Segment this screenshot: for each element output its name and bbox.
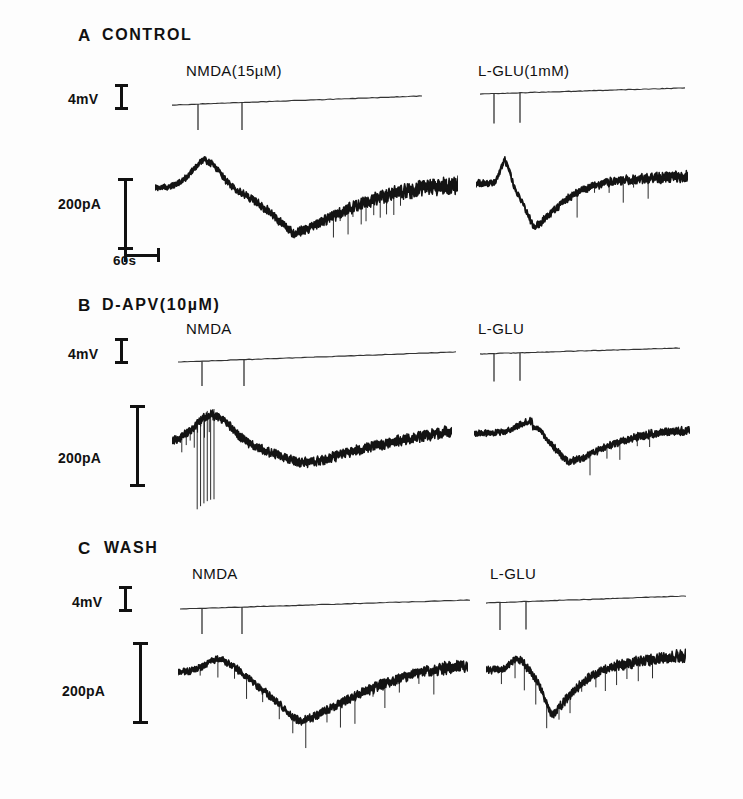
scale-bar-cap-top [130,405,145,408]
panel-title-C: WASH [104,539,158,557]
current-noise-band [178,656,468,725]
drug-label-C-1: L-GLU [490,565,536,582]
scale-bar-cap-bottom [115,107,128,110]
current-noise-band [155,157,458,238]
voltage-scale-bar-C [119,586,132,612]
scale-bar-cap-bottom [115,361,128,364]
figure-canvas: ACONTROL4mV200pA60sNMDA(15µM)L-GLU(1mM)B… [0,0,743,799]
current-scale-bar-C [133,642,148,724]
voltage-trace-C-1 [486,588,686,630]
panel-letter-A: A [78,26,91,46]
current-trace-C-1 [486,642,686,768]
panel-letter-C: C [78,539,91,559]
voltage-scale-label-B: 4mV [68,346,98,362]
scale-bar-stem [139,642,142,724]
current-scale-label-B: 200pA [58,450,101,466]
drug-label-A-1: L-GLU(1mM) [478,62,570,79]
scale-bar-cap-top [133,642,148,645]
scale-bar-cap-bottom [119,609,132,612]
scale-bar-cap-bottom [133,721,148,724]
voltage-baseline-line [172,96,422,105]
voltage-baseline-line [180,600,470,609]
voltage-baseline-line [480,88,685,94]
current-scale-bar-B [130,405,145,487]
scale-bar-cap-top [115,84,128,87]
voltage-trace-B-0 [178,344,456,386]
voltage-baseline-line [178,352,456,362]
time-scale-label-A: 60s [113,253,136,268]
panel-title-A: CONTROL [102,26,192,44]
current-scale-bar-A [118,178,133,250]
voltage-trace-A-1 [480,80,685,124]
scale-bar-cap-top [115,338,128,341]
voltage-scale-label-A: 4mV [68,91,98,107]
scale-bar-cap-bottom [130,484,145,487]
voltage-scale-label-C: 4mV [72,594,102,610]
drug-label-C-0: NMDA [192,565,238,582]
current-trace-B-1 [474,404,690,516]
scale-bar-cap-top [118,178,133,181]
current-scale-label-A: 200pA [58,196,101,212]
voltage-trace-C-0 [180,592,470,634]
current-trace-C-0 [178,640,468,774]
current-trace-A-0 [155,148,458,284]
current-trace-B-0 [172,400,452,526]
scale-bar-cap-top [119,586,132,589]
current-trace-A-1 [476,152,688,276]
panel-letter-B: B [78,296,91,316]
drug-label-B-0: NMDA [186,320,232,337]
voltage-baseline-line [486,596,686,603]
voltage-trace-A-0 [172,88,422,130]
panel-title-B: D-APV(10µM) [102,296,220,314]
voltage-scale-bar-B [115,338,128,364]
scale-bar-stem [136,405,139,487]
voltage-scale-bar-A [115,84,128,110]
drug-label-A-0: NMDA(15µM) [186,62,282,79]
scale-bar-stem [124,178,127,250]
current-scale-label-C: 200pA [62,683,105,699]
voltage-baseline-line [480,348,680,354]
drug-label-B-1: L-GLU [478,320,524,337]
voltage-trace-B-1 [480,340,680,382]
